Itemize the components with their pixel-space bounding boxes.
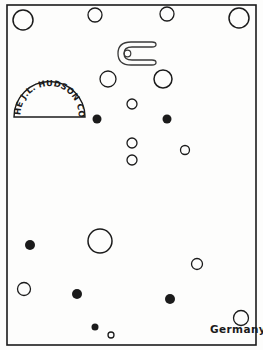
button-dot-solid (92, 324, 99, 331)
scanned-card-image: THE J.L. HUDSON CO. Germany (0, 0, 263, 350)
country-of-origin-label: Germany (210, 323, 263, 336)
button-dot-solid (72, 289, 82, 299)
button-dot-solid (163, 115, 172, 124)
card-background (0, 0, 263, 350)
button-dot-solid (93, 115, 102, 124)
button-dot-solid (25, 240, 35, 250)
artboard: THE J.L. HUDSON CO. (0, 0, 263, 350)
button-dot-solid (165, 294, 175, 304)
